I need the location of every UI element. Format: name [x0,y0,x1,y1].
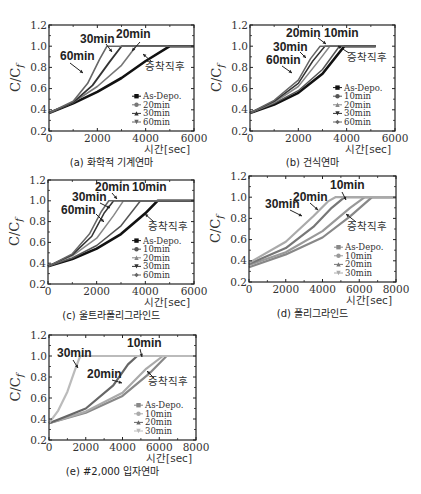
chart-caption: (c) 울트라폴리그라인드 [62,310,159,321]
x-tick-label: 0 [246,283,253,295]
series-group [49,356,196,423]
x-axis-label: 시간[sec] [144,296,190,308]
y-tick-label: 1.0 [231,40,248,52]
curve-annotation: 30min [265,197,300,211]
x-axis: 0200040006000 [46,25,208,144]
curve-annotation: 30min [273,40,308,54]
x-tick-label: 0 [46,441,53,453]
curve-annotation: 30min [80,32,115,46]
y-tick-label: 0.8 [30,371,47,383]
y-axis-label: C/Cf [8,371,25,401]
chart-panel-c: 0.20.40.60.81.01.20200040006000C/Cf시간[se… [7,174,207,322]
curve-annotation: 60min [61,203,96,217]
y-tick-label: 0.6 [30,392,47,404]
chart-caption: (b) 건식연마 [286,157,339,168]
curve-annotation: 30min [57,346,92,360]
curve-annotation: 10min [132,180,167,194]
y-tick-label: 0.8 [30,61,47,73]
x-axis: 0200040006000 [45,180,208,297]
series-line-10min [49,356,196,423]
x-tick-label: 2000 [72,441,99,453]
y-tick-label: 0.4 [30,413,47,425]
y-tick-label: 0.8 [231,61,248,73]
x-tick-label: 0 [45,285,52,297]
curve-annotation: 60min [60,49,95,63]
curve-annotation: 30min [72,190,107,204]
legend: As-Depo.10min20min30min [134,400,183,436]
chart-panel-d: 0.20.40.60.81.01.202000400060008000C/Cf시… [208,170,409,320]
x-tick-label: 0 [247,132,254,144]
legend-label: 30min [145,426,173,436]
plot-frame [48,180,194,284]
chart-caption: (a) 화학적 기계연마 [70,157,153,168]
y-tick-label: 0.4 [231,103,248,115]
y-tick-label: 0.6 [230,233,247,245]
curve-annotation: 10min [324,26,359,40]
y-tick-label: 1.2 [30,329,47,341]
y-tick-label: 0.2 [231,125,248,137]
legend-item: 60min [333,117,372,127]
y-tick-label: 1.0 [30,40,47,52]
legend-label: 60min [143,117,171,127]
chart-caption: (d) 폴리그라인드 [277,308,348,319]
legend-label: 60min [344,117,372,127]
x-axis: 0200040006000 [247,25,409,144]
y-tick-label: 0.6 [30,82,47,94]
x-tick-label: 4000 [309,283,336,295]
y-axis-label: C/Cf [7,216,24,246]
curve-annotation: 증착직후 [148,375,188,387]
y-axis-label: C/Cf [209,62,226,92]
y-tick-label: 1.2 [30,19,47,31]
series-line-30min [49,356,196,423]
x-tick-label: 0 [46,132,53,144]
legend-item: 60min [132,270,171,280]
x-axis-label: 시간[sec] [345,143,391,155]
x-tick-label: 2000 [84,132,111,144]
curve-annotation: 증착직후 [145,60,185,72]
annotations: 30min10min20min증착직후 [57,336,188,387]
legend: As-Depo.20min30min60min [132,91,181,127]
y-tick-label: 0.6 [231,82,248,94]
curve-annotation: 20min [116,27,151,41]
y-tick-label: 1.2 [231,19,248,31]
curve-annotation: 증착직후 [347,51,387,63]
x-tick-label: 2000 [272,283,299,295]
x-axis-label: 시간[sec] [144,143,190,155]
curve-annotation: 10min [330,178,365,192]
y-tick-label: 0.4 [30,103,47,115]
y-axis-label: C/Cf [8,62,25,92]
y-tick-label: 0.2 [30,125,47,137]
legend: As-Depo.10min20min30min60min [333,83,382,127]
y-tick-label: 0.4 [29,257,46,269]
curve-annotation: 20min [286,26,321,40]
y-tick-label: 1.2 [230,170,247,182]
y-tick-label: 0.8 [230,212,247,224]
series-line-20min [49,356,196,423]
y-tick-label: 0.2 [30,434,47,446]
legend: As-Depo.10min20min30min [334,242,383,278]
x-tick-label: 4000 [109,441,136,453]
x-axis-label: 시간[sec] [146,452,192,464]
y-axis-label: C/Cf [208,213,225,243]
curve-annotation: 증착직후 [347,220,387,232]
y-tick-label: 1.0 [230,191,247,203]
y-tick-label: 1.0 [29,194,46,206]
legend-item: 30min [334,268,373,278]
curve-annotation: 20min [87,367,122,381]
annotations: 10min20min30min증착직후 [265,178,387,232]
curve-annotation: 10min [127,336,162,350]
legend-item: 30min [134,426,173,436]
legend-item: 60min [132,117,171,127]
legend: As-Depo.10min20min30min60min [132,236,181,280]
y-tick-label: 0.6 [29,236,46,248]
series-line-as-depo- [49,356,196,423]
legend-label: 30min [345,268,373,278]
x-axis-label: 시간[sec] [346,294,392,306]
y-tick-label: 1.0 [30,350,47,362]
y-tick-label: 0.8 [29,215,46,227]
y-tick-label: 1.2 [29,174,46,186]
annotations: 20min10min30min60min증착직후 [61,180,188,232]
chart-panel-a: 0.20.40.60.81.01.20200040006000C/Cf시간[se… [8,19,207,169]
curve-annotation: 60min [266,53,301,67]
legend-label: 60min [143,270,171,280]
